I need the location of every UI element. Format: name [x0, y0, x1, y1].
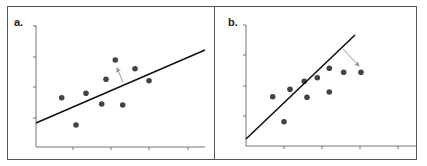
- data-point: [315, 75, 321, 81]
- panel-b-label: b.: [228, 16, 238, 28]
- data-point: [99, 101, 105, 107]
- residual-arrow-icon: [343, 49, 359, 66]
- data-point: [146, 78, 152, 84]
- data-point: [132, 66, 138, 72]
- panel-b: b.: [228, 16, 416, 149]
- data-point: [270, 94, 276, 100]
- outer-frame: [8, 7, 417, 160]
- data-point: [341, 70, 347, 76]
- panel-a-label: a.: [14, 16, 23, 28]
- data-point: [287, 87, 293, 93]
- data-point: [327, 89, 333, 95]
- data-point: [103, 77, 109, 83]
- data-point: [83, 91, 89, 97]
- data-point: [304, 95, 310, 101]
- panel-a: a.: [14, 16, 205, 150]
- data-point: [358, 70, 364, 76]
- data-point: [73, 122, 79, 128]
- residual-arrow-icon: [117, 68, 123, 82]
- data-point: [59, 95, 65, 101]
- data-point: [113, 57, 119, 63]
- regression-line: [36, 50, 205, 123]
- data-point: [120, 102, 126, 108]
- regression-line: [246, 35, 355, 139]
- data-point: [281, 119, 287, 125]
- regression-figure: a. b.: [0, 0, 427, 166]
- data-point: [327, 66, 333, 72]
